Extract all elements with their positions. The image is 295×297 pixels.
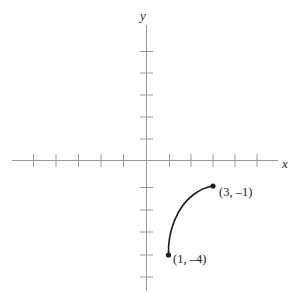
- coordinate-plane: [0, 0, 295, 297]
- plotted-curve: [168, 186, 213, 255]
- point-label-1-neg4: (1, –4): [173, 253, 206, 266]
- data-point-3-neg1: [210, 183, 215, 188]
- data-point-1-neg4: [166, 252, 171, 257]
- graph-figure: y x (3, –1) (1, –4): [0, 0, 295, 297]
- point-label-3-neg1: (3, –1): [219, 186, 252, 199]
- y-axis-label: y: [140, 9, 146, 22]
- x-axis-label: x: [282, 157, 288, 170]
